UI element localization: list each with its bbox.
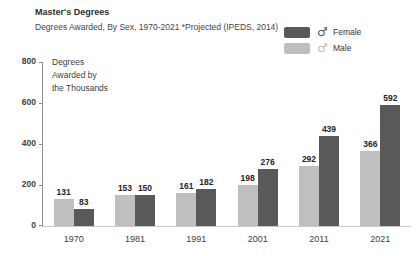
value-label: 182 xyxy=(199,177,213,187)
legend-label: Male xyxy=(333,43,351,53)
bar-female-2001: 276 xyxy=(258,169,278,226)
female-bar xyxy=(258,169,278,226)
value-label: 150 xyxy=(138,183,152,193)
x-tick-label: 1970 xyxy=(54,234,94,244)
bar-female-2011: 439 xyxy=(319,136,339,226)
y-tick-mark xyxy=(39,103,42,104)
bar-male-1991: 161 xyxy=(176,193,196,226)
bar-male-1970: 131 xyxy=(54,199,74,226)
female-bar xyxy=(196,189,216,226)
y-tick-label: 0 xyxy=(3,221,36,230)
masters-degrees-bar-chart: Master's Degrees Degrees Awarded, By Sex… xyxy=(0,0,417,256)
y-tick-label: 400 xyxy=(3,139,36,148)
bar-female-1981: 150 xyxy=(135,195,155,226)
legend-swatch xyxy=(284,43,310,54)
y-tick-label: 800 xyxy=(3,57,36,66)
y-tick-mark xyxy=(39,225,42,226)
y-tick-mark xyxy=(39,185,42,186)
chart-subtitle: Degrees Awarded, By Sex, 1970-2021 *Proj… xyxy=(35,22,278,32)
value-label: 83 xyxy=(79,197,88,207)
bar-male-2001: 198 xyxy=(238,185,258,226)
bar-group-2001: 1982762001 xyxy=(238,62,278,226)
value-label: 153 xyxy=(118,183,132,193)
bar-group-1991: 1611821991 xyxy=(176,62,216,226)
y-tick-label: 600 xyxy=(3,98,36,107)
legend-swatch xyxy=(284,27,310,38)
bar-male-1981: 153 xyxy=(115,195,135,226)
x-tick-label: 2021 xyxy=(360,234,400,244)
y-tick-label: 200 xyxy=(3,180,36,189)
male-symbol-icon: ♂ xyxy=(316,43,329,54)
bar-male-2021: 366 xyxy=(360,151,380,226)
value-label: 198 xyxy=(241,173,255,183)
x-tick-label: 1991 xyxy=(176,234,216,244)
value-label: 592 xyxy=(383,93,397,103)
male-bar xyxy=(176,193,196,226)
x-tick-label: 1981 xyxy=(115,234,155,244)
plot-area: Degrees Awarded by the Thousands 1318319… xyxy=(42,62,411,227)
legend-item-female: ♂Female xyxy=(284,24,361,40)
male-bar xyxy=(115,195,135,226)
value-label: 161 xyxy=(179,181,193,191)
legend-item-male: ♂Male xyxy=(284,40,361,56)
legend: ♂Female♂Male xyxy=(284,24,361,56)
legend-label: Female xyxy=(333,27,361,37)
bar-male-2011: 292 xyxy=(299,166,319,226)
male-bar xyxy=(360,151,380,226)
value-label: 366 xyxy=(363,139,377,149)
chart-title: Master's Degrees xyxy=(35,7,109,17)
female-bar xyxy=(380,105,400,226)
bar-group-1981: 1531501981 xyxy=(115,62,155,226)
bar-groups: 1318319701531501981161182199119827620012… xyxy=(43,62,411,226)
value-label: 276 xyxy=(261,157,275,167)
bar-female-1991: 182 xyxy=(196,189,216,226)
value-label: 131 xyxy=(57,187,71,197)
bar-group-2011: 2924392011 xyxy=(299,62,339,226)
female-bar xyxy=(319,136,339,226)
female-bar xyxy=(135,195,155,226)
y-tick-mark xyxy=(39,144,42,145)
x-tick-label: 2001 xyxy=(238,234,278,244)
male-bar xyxy=(299,166,319,226)
male-bar xyxy=(54,199,74,226)
bar-female-2021: 592 xyxy=(380,105,400,226)
male-bar xyxy=(238,185,258,226)
bar-group-2021: 3665922021 xyxy=(360,62,400,226)
bar-female-1970: 83 xyxy=(74,209,94,226)
female-bar xyxy=(74,209,94,226)
x-tick-label: 2011 xyxy=(299,234,339,244)
male-symbol-icon: ♂ xyxy=(316,27,329,38)
bar-group-1970: 131831970 xyxy=(54,62,94,226)
value-label: 439 xyxy=(322,124,336,134)
value-label: 292 xyxy=(302,154,316,164)
y-tick-mark xyxy=(39,62,42,63)
